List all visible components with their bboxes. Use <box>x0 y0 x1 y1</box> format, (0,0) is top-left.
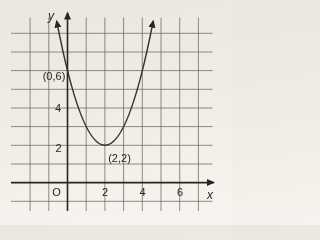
x-tick-6: 6 <box>177 186 183 198</box>
y-axis-label: y <box>47 9 55 23</box>
graph-figure: y x O 2 4 6 4 2 (0,6) (2,2) <box>0 0 232 225</box>
x-axis-label: x <box>206 188 214 202</box>
point-label-vertex: (2,2) <box>108 152 131 164</box>
y-tick-2: 2 <box>55 142 61 154</box>
x-tick-4: 4 <box>139 186 145 198</box>
origin-label: O <box>52 186 61 198</box>
point-label-y-intercept: (0,6) <box>43 70 66 82</box>
parabola-graph: y x O 2 4 6 4 2 (0,6) (2,2) <box>0 0 232 225</box>
y-tick-4: 4 <box>55 102 61 114</box>
x-tick-2: 2 <box>102 186 108 198</box>
